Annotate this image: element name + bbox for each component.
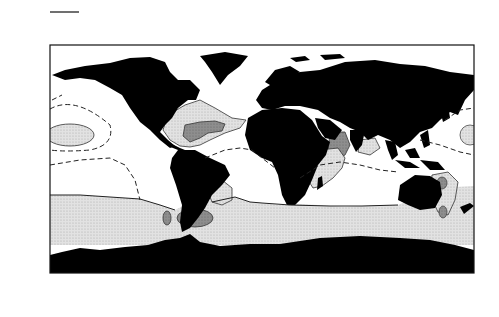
tasman-peak [439,206,447,218]
north-pacific-shading [46,124,94,146]
map-area [46,45,480,273]
contour-map-figure [0,0,499,317]
central-pacific-shading [460,125,480,145]
chile-peak [163,211,171,225]
